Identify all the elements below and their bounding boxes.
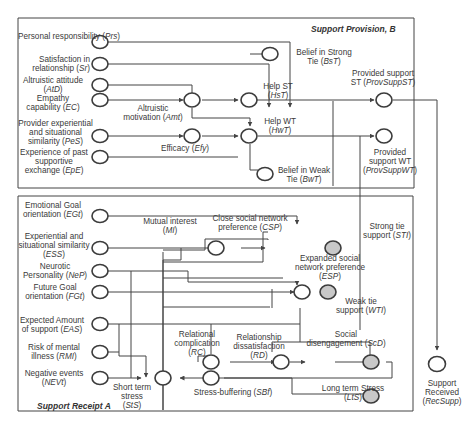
- label-ec: Empathy capability (EC): [20, 94, 86, 112]
- label-epe: Experience of past supportive exchange (…: [18, 148, 90, 176]
- label-provsuppwt: Provided support WT (ProvSuppWT): [360, 148, 420, 176]
- label-mi: Mutual interest (MI): [140, 217, 200, 235]
- label-rc: Relational complication (RC): [170, 330, 224, 358]
- label-efy: Efficacy (Efy): [150, 144, 220, 153]
- label-lts: Long term Stress (LtS): [318, 384, 388, 402]
- label-srs: Short term stress (StS): [112, 383, 152, 411]
- node-atd: [92, 79, 108, 92]
- node-rmi: [92, 346, 108, 359]
- label-hwt: Help WT (HwT): [262, 117, 298, 135]
- label-hst: Help ST (HsT): [262, 82, 294, 100]
- node-bst: [262, 48, 278, 61]
- label-esp: Expanded social network preference (ESP): [290, 254, 370, 282]
- label-wti: Weak tie support (WTI): [334, 297, 388, 315]
- node-sbf: [203, 371, 219, 385]
- node-eas: [92, 318, 108, 331]
- label-eas: Expected Amount of support (EAS): [18, 316, 86, 334]
- label-nevt: Negative events (NEVt): [24, 369, 84, 387]
- node-provsuppwt: [376, 129, 392, 143]
- node-provsuppst: [376, 93, 392, 107]
- label-sbf: Stress-buffering (SBf): [188, 388, 278, 397]
- label-sr: Satisfaction in relationship (Sr): [18, 55, 90, 73]
- label-bst: Belief in Strong Tie (BsT): [293, 48, 355, 66]
- label-bwt: Belief in Weak Tie (BwT): [276, 166, 332, 184]
- label-provsuppst: Provided support ST (ProvSuppST): [350, 69, 416, 87]
- node-bwt: [257, 168, 273, 181]
- label-rmi: Risk of mental illness (RMI): [24, 343, 84, 361]
- node-ec: [92, 94, 108, 107]
- node-egt: [92, 210, 108, 223]
- node-amt: [184, 93, 200, 107]
- label-nep: Neurotic Personality (NeP): [22, 262, 88, 280]
- label-amt: Altruistic motivation (Amt): [120, 104, 186, 122]
- node-pes: [92, 130, 108, 143]
- node-sr: [92, 58, 108, 71]
- node-ess: [92, 242, 108, 255]
- node-nep: [92, 265, 108, 278]
- label-rd: Relationship dissatisfaction (RD): [228, 333, 290, 361]
- label-atd: Altruistic attitude (AtD): [20, 76, 86, 94]
- node-scd: [363, 355, 379, 369]
- node-csp: [208, 241, 224, 255]
- label-ess: Experiential and situational similarity …: [16, 232, 92, 260]
- node-efy: [184, 129, 200, 143]
- label-recsupp: Support Received (RecSupp): [416, 379, 468, 407]
- section-title-provision: Support Provision, B: [311, 24, 396, 34]
- label-pes: Provider experiential and situational si…: [18, 119, 93, 147]
- section-title-receipt: Support Receipt A: [37, 401, 111, 411]
- label-prs: Personal responsibility (Prs): [18, 32, 90, 41]
- node-recsupp: [429, 357, 446, 372]
- node-hst: [241, 93, 257, 107]
- node-nevt: [92, 372, 108, 385]
- label-egt: Emotional Goal orientation (EGt): [22, 201, 84, 219]
- node-epe: [92, 151, 108, 164]
- label-fgt: Future Goal orientation (FGt): [22, 283, 88, 301]
- node-srs: [155, 371, 171, 385]
- node-fgt: [92, 286, 108, 299]
- label-sti: Strong tie support (STI): [362, 222, 412, 240]
- label-csp: Close social network preference (CSP): [210, 214, 290, 232]
- node-hwt: [241, 129, 257, 143]
- node-esp: [294, 285, 310, 299]
- label-scd: Social disengagement (ScD): [306, 330, 386, 348]
- node-sti: [325, 241, 341, 255]
